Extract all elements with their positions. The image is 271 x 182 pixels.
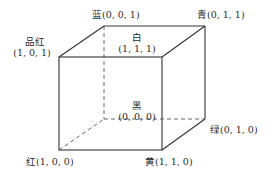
edge-hidden-diagonal — [59, 119, 104, 150]
edge-bottom-right-diagonal — [162, 119, 205, 150]
vertex-label-black-name: 黑 — [110, 100, 164, 111]
vertex-label-black-coords: (0, 0, 0) — [110, 111, 164, 122]
edge-top-left-diagonal — [59, 26, 104, 57]
vertex-label-red: 红(1, 0, 0) — [26, 156, 74, 167]
vertex-label-yellow: 黄(1, 1, 0) — [145, 156, 193, 167]
vertex-label-cyan: 青(0, 1, 1) — [197, 9, 245, 20]
edge-top-right-diagonal — [162, 26, 205, 57]
vertex-label-white-coords: (1, 1, 1) — [110, 43, 164, 54]
vertex-label-blue: 蓝(0, 0, 1) — [92, 9, 140, 20]
rgb-cube-diagram — [0, 0, 271, 182]
vertex-label-white-name: 白 — [110, 32, 164, 43]
vertex-label-green: 绿(0, 1, 0) — [210, 124, 258, 135]
vertex-label-magenta-coords: (1, 0, 1) — [6, 47, 58, 58]
vertex-label-magenta-name: 品红 — [12, 36, 58, 47]
